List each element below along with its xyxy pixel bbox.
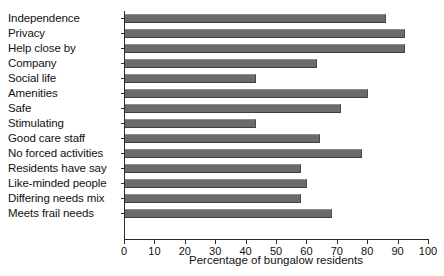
bar xyxy=(125,104,341,113)
bar xyxy=(125,134,320,143)
category-label: Privacy xyxy=(8,26,120,41)
bar-row xyxy=(124,56,428,71)
category-label: Meets frail needs xyxy=(8,206,120,221)
y-axis-tick xyxy=(121,33,124,34)
bar-row xyxy=(124,191,428,206)
y-axis-tick xyxy=(121,108,124,109)
category-axis-labels: Independence Privacy Help close by Compa… xyxy=(8,11,120,221)
category-label: Help close by xyxy=(8,41,120,56)
bar xyxy=(125,74,256,83)
x-axis-tick xyxy=(337,240,338,244)
bar-row xyxy=(124,26,428,41)
x-axis-tick xyxy=(185,240,186,244)
y-axis-tick xyxy=(121,198,124,199)
bar-row xyxy=(124,41,428,56)
y-axis-tick xyxy=(121,78,124,79)
bar-row xyxy=(124,116,428,131)
bar-row xyxy=(124,131,428,146)
bar-row xyxy=(124,101,428,116)
plot-area: 0102030405060708090100 xyxy=(124,11,428,239)
bar-row xyxy=(124,146,428,161)
bar-row xyxy=(124,206,428,221)
y-axis-tick xyxy=(121,138,124,139)
bar-row xyxy=(124,161,428,176)
y-axis-tick xyxy=(121,93,124,94)
bar xyxy=(125,14,386,23)
bar xyxy=(125,89,368,98)
y-axis-tick xyxy=(121,63,124,64)
x-axis-tick xyxy=(367,240,368,244)
bar xyxy=(125,44,405,53)
category-label: Stimulating xyxy=(8,116,120,131)
bar-row xyxy=(124,176,428,191)
x-axis-tick xyxy=(154,240,155,244)
x-axis-tick xyxy=(398,240,399,244)
bar xyxy=(125,59,317,68)
y-axis-tick xyxy=(121,183,124,184)
y-axis-tick xyxy=(121,168,124,169)
category-label: Company xyxy=(8,56,120,71)
category-label: Like-minded people xyxy=(8,176,120,191)
bar xyxy=(125,164,301,173)
y-axis-tick xyxy=(121,153,124,154)
x-axis-title: Percentage of bungalow residents xyxy=(124,254,428,266)
x-axis-tick xyxy=(428,240,429,244)
bar xyxy=(125,29,405,38)
x-axis-tick xyxy=(215,240,216,244)
bar xyxy=(125,194,301,203)
bar-row xyxy=(124,11,428,26)
category-label: Independence xyxy=(8,11,120,26)
category-label: Safe xyxy=(8,101,120,116)
x-axis-tick xyxy=(124,240,125,244)
bar-series xyxy=(124,11,428,221)
y-axis-tick xyxy=(121,213,124,214)
y-axis-tick xyxy=(121,123,124,124)
category-label: Amenities xyxy=(8,86,120,101)
x-axis-tick xyxy=(306,240,307,244)
bar-row xyxy=(124,71,428,86)
category-label: No forced activities xyxy=(8,146,120,161)
x-axis-tick xyxy=(246,240,247,244)
y-axis-tick xyxy=(121,48,124,49)
category-label: Differing needs mix xyxy=(8,191,120,206)
x-axis-tick xyxy=(276,240,277,244)
bar xyxy=(125,209,332,218)
category-label: Social life xyxy=(8,71,120,86)
bar-chart: Independence Privacy Help close by Compa… xyxy=(0,0,444,276)
category-label: Residents have say xyxy=(8,161,120,176)
category-label: Good care staff xyxy=(8,131,120,146)
y-axis-tick xyxy=(121,18,124,19)
bar xyxy=(125,119,256,128)
bar xyxy=(125,179,307,188)
bar xyxy=(125,149,362,158)
bar-row xyxy=(124,86,428,101)
